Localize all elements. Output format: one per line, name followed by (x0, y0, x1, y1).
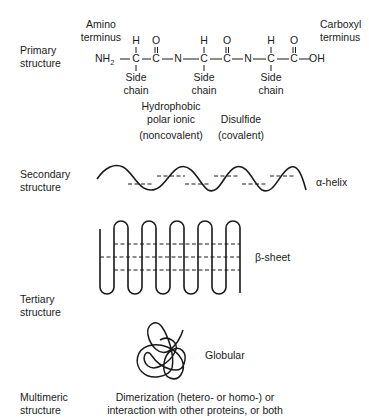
diagram-drawing (0, 0, 369, 417)
beta-sheet-label: β-sheet (255, 251, 290, 264)
globular-label: Globular (205, 349, 245, 362)
alpha-helix-drawing (97, 166, 306, 191)
globular-protein-drawing (137, 323, 185, 379)
description-line: Dimerization (hetero- or homo-) or (95, 391, 295, 404)
primary-bonds (120, 47, 310, 71)
beta-sheet-drawing (100, 221, 240, 294)
multimeric-description: Dimerization (hetero- or homo-) or inter… (95, 391, 295, 416)
description-line: interaction with other proteins, or both (95, 404, 295, 417)
alpha-helix-label: α-helix (316, 176, 347, 189)
